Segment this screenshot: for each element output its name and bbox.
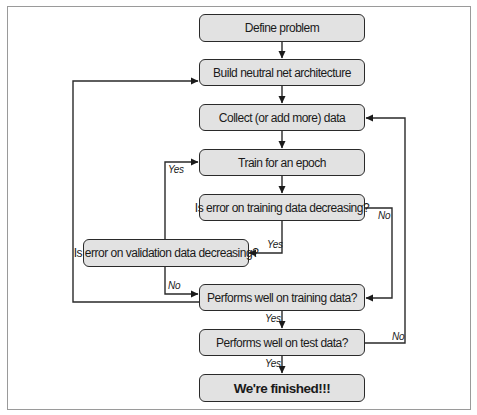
node-label: We're finished!!! [234, 381, 330, 396]
node-train-epoch: Train for an epoch [199, 149, 365, 176]
node-build-architecture: Build neutral net architecture [199, 59, 365, 86]
node-label: Build neutral net architecture [213, 66, 351, 80]
node-label: Collect (or add more) data [219, 111, 345, 125]
edge-label-perf-test-no: No [392, 331, 404, 342]
node-label: Is error on validation data decreasing? [74, 246, 259, 260]
node-label: Is error on training data decreasing? [195, 201, 369, 215]
edge-label-val-no: No [168, 280, 180, 291]
node-collect-data: Collect (or add more) data [199, 104, 365, 131]
node-label: Performs well on test data? [216, 336, 348, 350]
edge-label-train-no: No [378, 210, 390, 221]
edge-label-train-yes: Yes [267, 239, 283, 250]
node-define-problem: Define problem [199, 14, 365, 42]
node-label: Define problem [245, 21, 319, 35]
edge-label-perf-test-yes: Yes [265, 358, 281, 369]
node-performs-test-decision: Performs well on test data? [199, 329, 365, 356]
node-performs-training-decision: Performs well on training data? [199, 284, 365, 311]
node-validation-error-decision: Is error on validation data decreasing? [83, 239, 249, 267]
node-finished: We're finished!!! [199, 374, 365, 402]
node-label: Performs well on training data? [207, 291, 357, 305]
edge-label-perf-train-yes: Yes [265, 313, 281, 324]
node-training-error-decision: Is error on training data decreasing? [199, 194, 365, 221]
node-label: Train for an epoch [238, 156, 326, 170]
edge-label-val-yes: Yes [168, 164, 184, 175]
